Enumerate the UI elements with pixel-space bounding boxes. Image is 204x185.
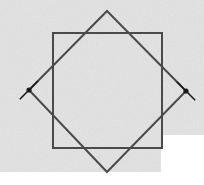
figure-canvas [0, 0, 204, 185]
geometry-diagram [0, 0, 204, 185]
marker-dot-icon [183, 88, 188, 93]
marker-dot-icon [26, 87, 31, 92]
